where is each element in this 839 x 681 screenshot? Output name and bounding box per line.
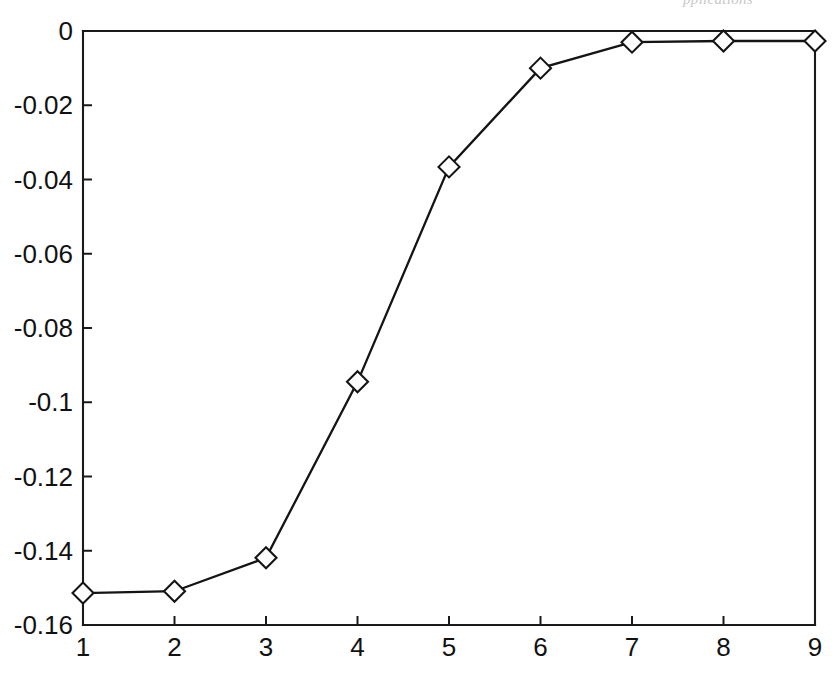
y-tick-label-6: -0.12 — [14, 462, 73, 492]
x-tick-label-3: 4 — [350, 632, 364, 662]
x-tick-labels: 123456789 — [76, 632, 822, 662]
data-point-1 — [73, 583, 94, 604]
y-tick-marks — [83, 31, 92, 625]
x-tick-label-2: 3 — [259, 632, 273, 662]
data-point-3 — [256, 547, 277, 568]
y-tick-label-4: -0.08 — [14, 313, 73, 343]
data-point-9 — [805, 31, 826, 52]
y-tick-label-8: -0.16 — [14, 610, 73, 640]
line-chart: 0-0.02-0.04-0.06-0.08-0.1-0.12-0.14-0.16… — [0, 0, 839, 681]
data-point-4 — [347, 371, 368, 392]
x-tick-label-7: 8 — [716, 632, 730, 662]
x-tick-label-8: 9 — [808, 632, 822, 662]
y-tick-label-1: -0.02 — [14, 90, 73, 120]
x-tick-label-5: 6 — [533, 632, 547, 662]
y-tick-label-2: -0.04 — [14, 165, 73, 195]
x-tick-marks — [83, 616, 815, 625]
y-tick-label-0: 0 — [59, 16, 73, 46]
x-tick-label-6: 7 — [625, 632, 639, 662]
y-tick-label-7: -0.14 — [14, 536, 73, 566]
y-tick-label-5: -0.1 — [28, 387, 73, 417]
x-tick-label-4: 5 — [442, 632, 456, 662]
x-tick-label-0: 1 — [76, 632, 90, 662]
x-tick-label-1: 2 — [167, 632, 181, 662]
y-tick-label-3: -0.06 — [14, 239, 73, 269]
data-point-8 — [713, 31, 734, 52]
y-tick-labels: 0-0.02-0.04-0.06-0.08-0.1-0.12-0.14-0.16 — [14, 16, 73, 640]
data-point-7 — [622, 32, 643, 53]
series-1-markers — [73, 31, 826, 604]
data-point-2 — [164, 581, 185, 602]
series-1-line — [83, 41, 815, 593]
figure-container: pplications 0-0.02-0.04-0.06-0.08-0.1-0.… — [0, 0, 839, 681]
axes-group — [83, 31, 815, 625]
